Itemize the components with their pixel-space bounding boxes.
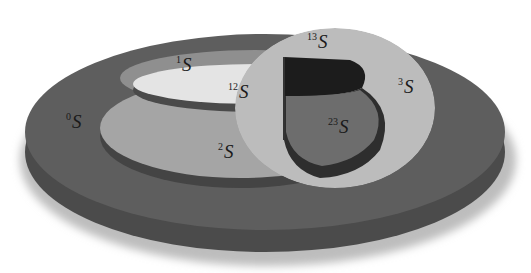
diagram-canvas <box>0 0 531 273</box>
label-s0: 0S <box>66 112 82 131</box>
label-s2: 2S <box>218 142 234 161</box>
label-s12: 12S <box>228 82 249 101</box>
label-s3: 3S <box>398 77 414 96</box>
venn-diagram: 0S 1S 2S 3S 12S 13S 23S <box>0 0 531 273</box>
region-s13 <box>284 57 365 96</box>
label-s1: 1S <box>176 55 192 74</box>
label-s13: 13S <box>307 32 328 51</box>
label-s23: 23S <box>328 117 349 136</box>
